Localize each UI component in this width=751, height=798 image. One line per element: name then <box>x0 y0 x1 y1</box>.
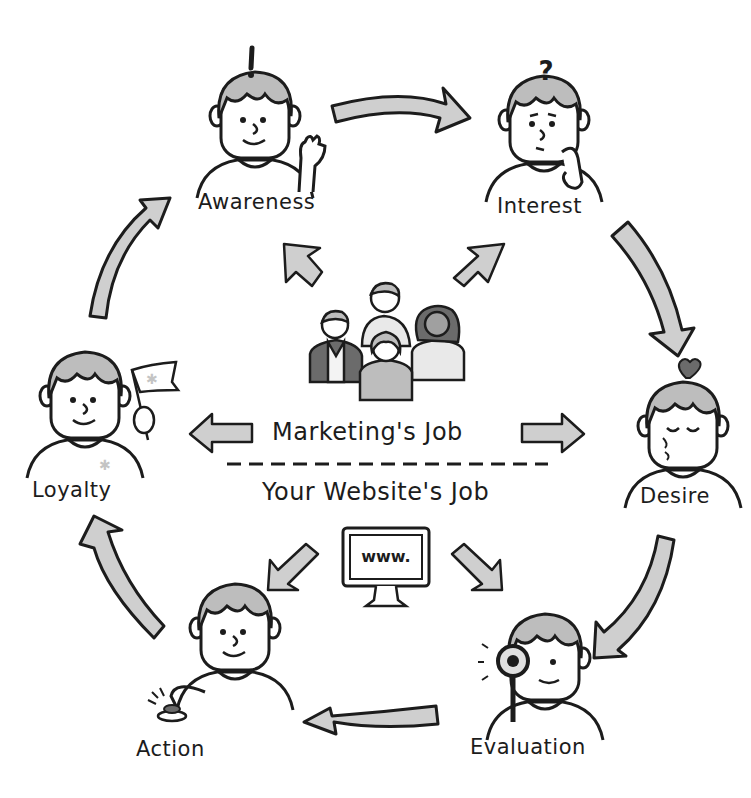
action-illustration <box>171 584 293 710</box>
stage-label-evaluation: Evaluation <box>470 735 586 759</box>
cycle-arrow-evaluation-to-action <box>304 706 438 734</box>
svg-text:?: ? <box>538 56 553 86</box>
loyalty-illustration: ✱ <box>27 352 143 478</box>
cycle-arrow-loyalty-to-awareness <box>90 198 170 318</box>
stage-label-interest: Interest <box>497 194 582 218</box>
monitor-url-text: www. <box>361 547 410 566</box>
arrow-to-interest <box>454 244 504 286</box>
website-job-label: Your Website's Job <box>262 478 489 506</box>
marketing-team-icon <box>310 283 464 400</box>
cycle-arrow-awareness-to-interest <box>332 88 470 132</box>
customer-journey-diagram: ? ✱ ✱ <box>0 0 751 798</box>
marketing-job-label: Marketing's Job <box>272 418 463 446</box>
stage-label-loyalty: Loyalty <box>32 478 111 502</box>
arrow-to-evaluation <box>452 544 502 590</box>
awareness-illustration <box>197 72 325 198</box>
website-monitor-icon: www. <box>343 528 429 606</box>
stage-label-action: Action <box>136 737 205 761</box>
svg-text:✱: ✱ <box>99 457 111 473</box>
cycle-arrow-action-to-loyalty <box>80 516 164 638</box>
stage-label-awareness: Awareness <box>198 190 315 214</box>
arrow-to-loyalty <box>190 414 252 452</box>
arrow-to-desire <box>522 414 584 452</box>
arrow-to-awareness <box>284 244 322 286</box>
heart-icon <box>679 359 701 378</box>
question-mark-icon: ? <box>538 56 553 86</box>
evaluation-illustration <box>487 614 603 740</box>
exclamation-icon <box>248 48 254 78</box>
svg-text:✱: ✱ <box>146 371 158 387</box>
cycle-arrow-desire-to-evaluation <box>594 536 674 658</box>
arrow-to-action <box>268 544 318 590</box>
cycle-arrow-interest-to-desire <box>612 222 694 356</box>
interest-illustration <box>486 76 602 202</box>
flag-icon: ✱ <box>132 362 178 440</box>
stage-label-desire: Desire <box>640 484 710 508</box>
